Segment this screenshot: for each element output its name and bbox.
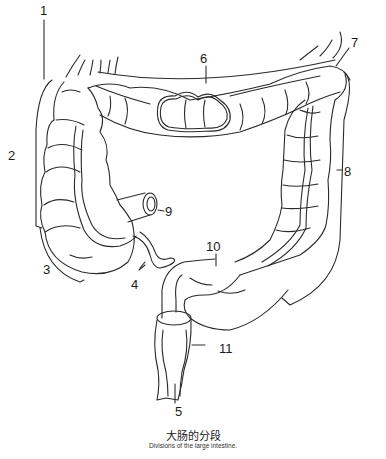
ileum [117, 193, 164, 222]
caption-english: Divisions of the large intestine. [0, 442, 386, 449]
label-7: 7 [351, 36, 358, 49]
label-6: 6 [200, 52, 207, 65]
label-10: 10 [206, 240, 220, 253]
descending-colon [235, 74, 346, 275]
mesentery-strands-right [300, 32, 341, 60]
bracket-descending [282, 72, 350, 305]
rectum [155, 311, 205, 403]
caption-chinese: 大肠的分段 [0, 427, 386, 443]
label-5: 5 [175, 405, 182, 418]
label-8: 8 [344, 165, 351, 178]
bracket-transverse [98, 60, 335, 79]
large-intestine-diagram [0, 0, 386, 459]
label-9: 9 [165, 205, 172, 218]
appendix [133, 232, 175, 268]
ascending-colon [41, 82, 136, 274]
label-2: 2 [8, 149, 15, 162]
label-1: 1 [40, 4, 47, 17]
label-3: 3 [43, 263, 50, 276]
label-4: 4 [131, 278, 138, 291]
label-11: 11 [219, 342, 233, 355]
